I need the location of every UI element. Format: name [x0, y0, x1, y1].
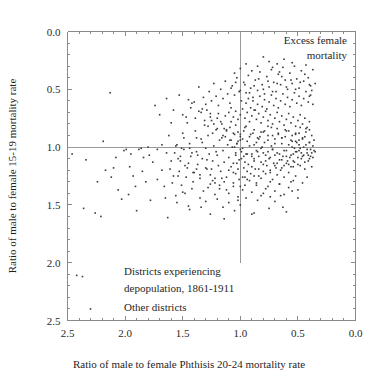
data-point [267, 135, 269, 137]
data-point [292, 160, 294, 162]
data-point [229, 102, 231, 104]
data-point [290, 154, 292, 156]
data-point [174, 152, 176, 154]
data-point [230, 139, 232, 141]
data-point [253, 212, 255, 214]
data-point [189, 143, 191, 145]
data-point [251, 156, 253, 158]
data-point [269, 181, 271, 183]
data-point [182, 132, 184, 134]
data-point [204, 124, 206, 126]
data-point [216, 154, 218, 156]
data-point [259, 136, 261, 138]
data-point [211, 100, 213, 102]
data-point [295, 175, 297, 177]
data-point [307, 154, 309, 156]
data-point [286, 156, 288, 158]
data-point [245, 153, 247, 155]
data-point [230, 121, 232, 123]
data-point [281, 137, 283, 139]
data-point [246, 141, 248, 143]
data-point [228, 157, 230, 159]
data-point [215, 151, 217, 153]
data-point [298, 144, 300, 146]
data-point [282, 206, 284, 208]
data-point [215, 95, 217, 97]
data-point [82, 276, 84, 278]
data-point [196, 137, 198, 139]
data-point [288, 113, 290, 115]
data-point [272, 135, 274, 137]
data-point [192, 181, 194, 183]
data-point [274, 154, 276, 156]
data-point [173, 175, 175, 177]
data-point [263, 56, 265, 58]
data-point [283, 124, 285, 126]
data-point [246, 171, 248, 173]
data-point [150, 199, 152, 201]
data-point [233, 132, 235, 134]
data-point [309, 121, 311, 123]
data-point [200, 112, 202, 114]
data-point [279, 183, 281, 185]
data-point [176, 202, 178, 204]
data-point [214, 178, 216, 180]
data-point [233, 182, 235, 184]
data-point [273, 162, 275, 164]
data-point [226, 130, 228, 132]
data-point [257, 199, 259, 201]
data-point [297, 189, 299, 191]
data-point [100, 216, 102, 218]
data-point [220, 121, 222, 123]
data-point [306, 127, 308, 129]
data-point [182, 114, 184, 116]
data-point [263, 193, 265, 195]
data-point [263, 164, 265, 166]
data-point [211, 120, 213, 122]
data-point [296, 78, 298, 80]
data-point [284, 79, 286, 81]
data-point [254, 109, 256, 111]
data-point [248, 75, 250, 77]
data-point [199, 178, 201, 180]
data-point [257, 65, 259, 67]
data-point [309, 129, 311, 131]
data-point [251, 153, 253, 155]
data-point [113, 167, 115, 169]
data-point [225, 136, 227, 138]
data-point [287, 160, 289, 162]
data-point [263, 131, 265, 133]
data-point [242, 108, 244, 110]
data-point [297, 120, 299, 122]
data-point [299, 82, 301, 84]
data-point [222, 206, 224, 208]
data-point [128, 194, 130, 196]
data-point [274, 190, 276, 192]
data-point [280, 100, 282, 102]
data-point [130, 153, 132, 155]
data-point [265, 154, 267, 156]
data-point [244, 161, 246, 163]
y-tick-label: 1.5 [47, 199, 61, 211]
data-point [298, 139, 300, 141]
data-point [166, 152, 168, 154]
y-tick-label: 1.0 [47, 141, 61, 153]
data-point [284, 104, 286, 106]
data-point [228, 169, 230, 171]
data-point [257, 90, 259, 92]
data-point [256, 184, 258, 186]
data-point [266, 76, 268, 78]
data-point [147, 146, 149, 148]
data-point [292, 153, 294, 155]
data-point [245, 197, 247, 199]
data-point [177, 158, 179, 160]
data-point [269, 196, 271, 198]
data-point [241, 151, 243, 153]
data-point [190, 156, 192, 158]
data-point [250, 134, 252, 136]
data-point [234, 72, 236, 74]
data-point [97, 181, 99, 183]
data-point [166, 98, 168, 100]
data-point [143, 157, 145, 159]
data-point [152, 161, 154, 163]
